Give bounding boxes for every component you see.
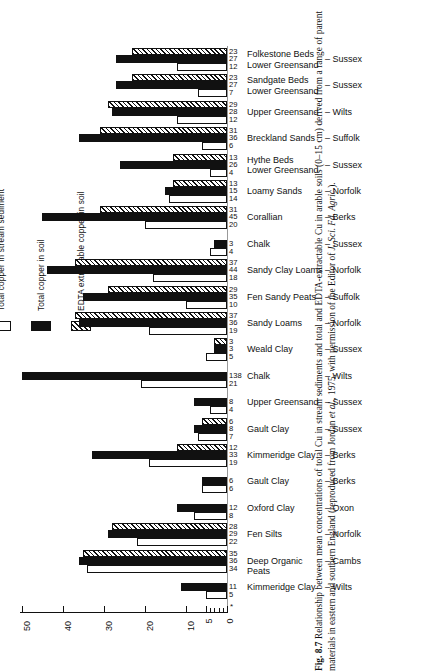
bar-total-sediment <box>145 221 227 229</box>
bar-value-sediment: 7 <box>229 433 233 441</box>
bar-value-sediment: 4 <box>229 248 233 256</box>
bar-total-sediment <box>177 63 227 71</box>
caption-italic-2: J. Sci. Fd. Agric. <box>327 188 337 251</box>
bar-total-soil <box>22 372 227 380</box>
bar-group <box>0 312 227 338</box>
bar-group <box>0 444 227 470</box>
caption-italic-1: et al. <box>327 400 337 419</box>
bar-value-sediment: 19 <box>229 459 237 467</box>
row-material-label-line2: Lower Greensand <box>247 60 319 70</box>
bar-group <box>0 48 227 74</box>
bar-total-soil <box>112 108 227 116</box>
bar-value-sediment: 10 <box>229 301 237 309</box>
bar-total-sediment <box>210 169 227 177</box>
x-minor-tick-4 <box>210 608 211 612</box>
bar-group <box>0 497 227 523</box>
x-tick-label-20: 20 <box>145 621 155 631</box>
bar-value-sediment: 20 <box>229 221 237 229</box>
bar-total-sediment <box>137 538 228 546</box>
bar-edta-extractable <box>132 48 227 55</box>
bar-value-sediment: 4 <box>229 406 233 414</box>
bar-value-sediment: 14 <box>229 195 237 203</box>
x-minor-tick-3 <box>214 608 215 612</box>
bar-edta-extractable <box>214 338 227 345</box>
x-minor-tick-2 <box>219 608 220 612</box>
bar-total-soil <box>194 425 227 433</box>
bar-total-sediment <box>153 274 227 282</box>
bar-group <box>0 365 227 391</box>
bar-edta-extractable <box>173 180 227 187</box>
x-axis-line <box>20 612 228 613</box>
figure-number: Fig. 8.7 <box>314 642 324 671</box>
bar-group <box>0 576 227 602</box>
bar-total-soil <box>79 557 227 565</box>
bar-edta-extractable <box>173 154 227 161</box>
bar-total-sediment <box>202 485 227 493</box>
bar-edta-extractable <box>75 312 227 319</box>
x-tick-label-50: 50 <box>22 621 32 631</box>
bar-group <box>0 418 227 444</box>
bar-total-sediment <box>186 301 227 309</box>
bar-group <box>0 154 227 180</box>
x-tick-10 <box>186 606 187 612</box>
bar-total-sediment <box>169 195 227 203</box>
bar-total-sediment <box>149 459 227 467</box>
bar-value-sediment: 5 <box>229 591 233 599</box>
bar-group <box>0 74 227 100</box>
bar-total-soil <box>42 213 227 221</box>
bar-group <box>0 101 227 127</box>
row-material-label-line2: Lower Greensand <box>247 165 319 175</box>
bar-group <box>0 127 227 153</box>
bar-value-sediment: 6 <box>229 142 233 150</box>
bar-value-sediment: 4 <box>229 169 233 177</box>
bar-total-soil <box>83 293 227 301</box>
caption-body-3: ). <box>327 182 337 187</box>
bar-value-sediment: 8 <box>229 512 233 520</box>
bar-group <box>0 180 227 206</box>
bar-group <box>0 233 227 259</box>
x-tick-label-30: 30 <box>104 621 114 631</box>
x-tick-label-10: 10 <box>186 621 196 631</box>
bar-total-soil <box>202 477 227 485</box>
figure-caption: Fig. 8.7 Relationship between mean conce… <box>368 0 423 671</box>
bar-total-soil <box>214 345 227 353</box>
bar-edta-extractable <box>112 523 227 530</box>
bar-total-soil <box>79 134 227 142</box>
bar-value-sediment: 5 <box>229 353 233 361</box>
bar-edta-extractable <box>108 286 227 293</box>
bar-edta-extractable <box>100 127 227 134</box>
bar-group <box>0 550 227 576</box>
bar-value-sediment: 18 <box>229 274 237 282</box>
bar-group <box>0 338 227 364</box>
bar-total-sediment <box>210 248 227 256</box>
x-tick-30 <box>104 606 105 612</box>
bar-edta-extractable <box>100 206 227 213</box>
bar-total-soil <box>165 187 227 195</box>
bar-total-soil <box>79 319 227 327</box>
row-material-label-line2: Lower Greensand <box>247 86 319 96</box>
bar-value-sediment: 22 <box>229 538 237 546</box>
bar-total-soil <box>214 240 227 248</box>
bar-total-soil <box>47 266 227 274</box>
bar-group <box>0 286 227 312</box>
x-tick-label-0: 0 <box>225 619 235 624</box>
axis-footnote-marker: * <box>230 602 233 611</box>
bar-group <box>0 259 227 285</box>
caption-body-2: , 1975, with permission of the Editor of <box>327 250 337 399</box>
bar-edta-extractable <box>83 550 227 557</box>
x-tick-50 <box>22 606 23 612</box>
x-tick-0 <box>227 606 228 612</box>
bar-total-sediment <box>194 512 227 520</box>
x-tick-label-40: 40 <box>63 621 73 631</box>
x-tick-40 <box>63 606 64 612</box>
bar-total-sediment <box>210 406 227 414</box>
bar-total-sediment <box>141 380 227 388</box>
bar-total-sediment <box>177 116 227 124</box>
bar-total-soil <box>92 451 227 459</box>
bar-total-soil <box>194 398 227 406</box>
bar-total-soil <box>177 504 227 512</box>
bar-total-sediment <box>198 433 227 441</box>
bar-group <box>0 523 227 549</box>
x-tick-label-5: 5 <box>204 619 214 624</box>
bar-edta-extractable <box>202 418 227 425</box>
